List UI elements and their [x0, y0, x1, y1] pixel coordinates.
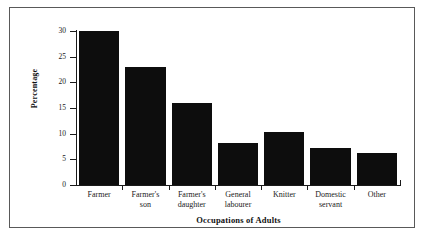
x-axis-category-label-line: Other [350, 190, 404, 200]
y-axis-tick-label-text: 10 [40, 130, 66, 138]
x-axis-category-label: Other [350, 190, 404, 200]
y-axis-tick-label-text: 5 [40, 155, 66, 163]
y-axis-tick-label-text: 30 [40, 27, 66, 35]
y-axis-tick-label: 0 [40, 181, 66, 189]
plot-area [76, 31, 400, 185]
bar [264, 132, 304, 185]
y-axis-tick-label-text: 15 [40, 104, 66, 112]
x-axis-category-label-line: labourer [211, 200, 265, 210]
y-axis-tick-label: 25 [40, 53, 66, 61]
y-axis-tick [70, 185, 76, 186]
bar [218, 143, 258, 185]
figure: Percentage 051015202530 FarmerFarmer'sso… [0, 0, 427, 238]
bar [310, 148, 350, 185]
x-axis-end-tick [400, 180, 401, 186]
y-axis-tick-label: 30 [40, 27, 66, 35]
x-axis-category-label-line: servant [303, 200, 357, 210]
y-axis-tick-label: 10 [40, 130, 66, 138]
y-axis-title: Percentage [30, 49, 39, 129]
x-axis-line [76, 185, 401, 186]
y-axis-tick-label-text: 25 [40, 53, 66, 61]
y-axis-tick-label: 5 [40, 155, 66, 163]
figure-border: Percentage 051015202530 FarmerFarmer'sso… [9, 7, 415, 228]
bar [125, 67, 165, 185]
y-axis-tick-label-text: 0 [40, 181, 66, 189]
y-axis-tick-label-text: 20 [40, 78, 66, 86]
bar [79, 31, 119, 185]
bar [172, 103, 212, 185]
y-axis-tick-label: 20 [40, 78, 66, 86]
x-axis-title: Occupations of Adults [76, 215, 401, 225]
y-axis-tick-label: 15 [40, 104, 66, 112]
bar [357, 153, 397, 185]
